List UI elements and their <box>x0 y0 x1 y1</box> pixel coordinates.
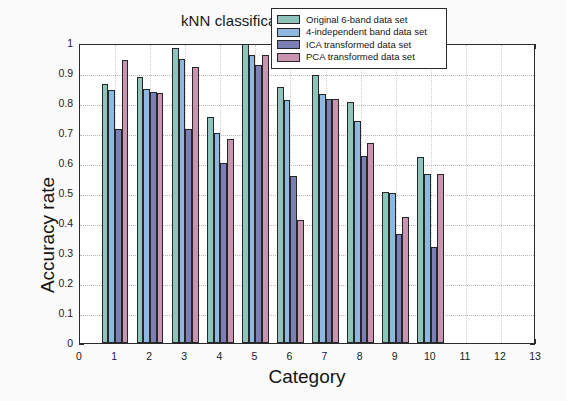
bar <box>424 174 431 344</box>
figure-canvas: kNN classification results comparison Ac… <box>0 0 566 401</box>
x-tick-label: 3 <box>174 350 194 362</box>
y-tick-label: 0.2 <box>43 277 73 289</box>
bar <box>220 163 227 343</box>
legend-item[interactable]: ICA transformed data set <box>277 39 441 51</box>
x-axis-label: Category <box>79 366 535 388</box>
gridline-x <box>501 45 502 343</box>
x-tick-label: 13 <box>525 350 545 362</box>
bar <box>102 84 109 343</box>
x-tick-label: 7 <box>315 350 335 362</box>
bar <box>402 217 409 343</box>
bar <box>172 48 179 344</box>
bar <box>143 89 150 343</box>
legend: Original 6-band data set4-independent ba… <box>271 8 447 69</box>
legend-swatch-icon <box>277 53 300 62</box>
y-tick-label: 0.7 <box>43 127 73 139</box>
y-tick-label: 0.9 <box>43 67 73 79</box>
bar <box>312 75 319 344</box>
x-tick-mark <box>535 339 536 344</box>
gridline-x <box>466 45 467 343</box>
legend-item[interactable]: PCA transformed data set <box>277 52 441 64</box>
bar <box>255 65 262 343</box>
bar <box>192 67 199 343</box>
y-tick-label: 0.4 <box>43 217 73 229</box>
bar <box>284 100 291 343</box>
bar <box>347 102 354 344</box>
x-tick-label: 6 <box>279 350 299 362</box>
bar <box>367 143 374 343</box>
bar <box>179 59 186 343</box>
y-tick-label: 0.3 <box>43 247 73 259</box>
bar <box>249 55 256 343</box>
y-axis-label-wrapper: Accuracy rate <box>14 74 44 314</box>
x-tick-label: 0 <box>69 350 89 362</box>
legend-item[interactable]: Original 6-band data set <box>277 14 441 26</box>
x-tick-label: 8 <box>350 350 370 362</box>
bar <box>262 55 269 343</box>
bar <box>137 77 144 343</box>
y-tick-label: 0.8 <box>43 97 73 109</box>
y-tick-mark <box>79 344 84 345</box>
legend-item-label: 4-independent band data set <box>306 27 427 37</box>
bar <box>150 92 157 343</box>
bar <box>108 90 115 344</box>
y-tick-label: 0.1 <box>43 307 73 319</box>
legend-swatch-icon <box>277 28 300 37</box>
legend-item-label: PCA transformed data set <box>306 52 415 62</box>
legend-swatch-icon <box>277 40 300 49</box>
x-tick-label: 2 <box>139 350 159 362</box>
bar <box>214 133 221 343</box>
bar <box>332 99 339 344</box>
bar <box>326 99 333 344</box>
x-tick-label: 11 <box>455 350 475 362</box>
bar <box>382 192 389 343</box>
bar <box>319 94 326 343</box>
x-tick-label: 10 <box>420 350 440 362</box>
bar <box>354 121 361 343</box>
x-tick-mark-top <box>535 44 536 49</box>
bar <box>431 247 438 343</box>
y-tick-mark-right <box>530 344 535 345</box>
bar <box>185 129 192 344</box>
legend-swatch-icon <box>277 15 300 24</box>
x-tick-label: 12 <box>490 350 510 362</box>
bar <box>115 129 122 343</box>
y-tick-label: 1 <box>43 37 73 49</box>
x-tick-label: 5 <box>244 350 264 362</box>
legend-item-label: ICA transformed data set <box>306 40 411 50</box>
bar <box>207 117 214 343</box>
bar <box>242 44 249 343</box>
bar <box>417 157 424 343</box>
bar <box>227 139 234 343</box>
legend-item-label: Original 6-band data set <box>306 15 407 25</box>
plot-area <box>79 44 535 344</box>
bar <box>389 193 396 343</box>
bar <box>361 156 368 344</box>
bar <box>290 176 297 343</box>
x-tick-label: 9 <box>385 350 405 362</box>
bar <box>396 234 403 344</box>
bar <box>122 60 129 343</box>
bar <box>437 174 444 344</box>
bar <box>277 87 284 344</box>
y-tick-label: 0.6 <box>43 157 73 169</box>
legend-item[interactable]: 4-independent band data set <box>277 27 441 39</box>
bar <box>157 93 164 343</box>
y-tick-label: 0.5 <box>43 187 73 199</box>
x-tick-label: 1 <box>104 350 124 362</box>
y-axis-label: Accuracy rate <box>37 115 59 355</box>
x-tick-label: 4 <box>209 350 229 362</box>
bar <box>297 220 304 343</box>
y-tick-label: 0 <box>43 337 73 349</box>
